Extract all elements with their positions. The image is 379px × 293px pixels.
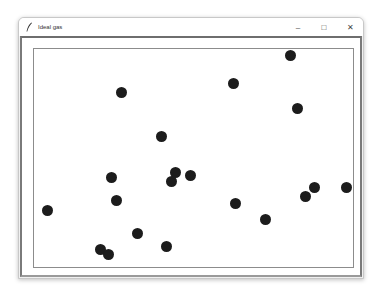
particle <box>228 78 239 89</box>
particle <box>166 176 177 187</box>
particle <box>260 214 271 225</box>
particle <box>111 195 122 206</box>
particle <box>292 103 303 114</box>
particle <box>309 182 320 193</box>
particle <box>185 170 196 181</box>
particle <box>156 131 167 142</box>
particle <box>161 241 172 252</box>
particle <box>132 228 143 239</box>
simulation-canvas <box>0 0 379 293</box>
container-box <box>33 48 354 268</box>
particle <box>341 182 352 193</box>
particle <box>42 205 53 216</box>
particle <box>103 249 114 260</box>
particle <box>300 191 311 202</box>
particle <box>116 87 127 98</box>
particle <box>106 172 117 183</box>
particle <box>285 50 296 61</box>
particle <box>230 198 241 209</box>
